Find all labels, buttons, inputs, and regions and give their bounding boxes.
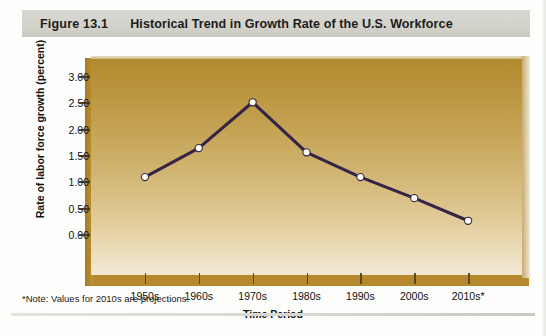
x-axis-tick-label: 2010s* <box>452 290 485 302</box>
figure-number-label: Figure 13.1 <box>40 17 108 31</box>
chart-plot-frame: Rate of labor force growth (percent) 0.0… <box>11 45 535 285</box>
footnote-text: *Note: Values for 2010s are projections. <box>22 293 189 304</box>
page-edge-shadow <box>541 0 546 336</box>
data-point-marker <box>411 195 418 202</box>
data-point-marker <box>249 99 256 106</box>
figure-header-band: Figure 13.1 Historical Trend in Growth R… <box>22 10 530 37</box>
x-axis-tick-label: 2000s <box>400 290 429 302</box>
data-point-marker <box>141 173 148 180</box>
series-polyline <box>145 102 468 221</box>
bottom-divider <box>11 313 535 316</box>
data-series-line <box>11 45 535 285</box>
data-point-marker <box>303 149 310 156</box>
x-axis-tick-label: 1990s <box>346 290 375 302</box>
x-axis-tick-label: 1980s <box>292 290 321 302</box>
figure-title-label: Historical Trend in Growth Rate of the U… <box>130 17 452 31</box>
x-axis-tick-label: 1970s <box>238 290 267 302</box>
data-point-marker <box>465 217 472 224</box>
data-point-marker <box>195 145 202 152</box>
figure-card: Figure 13.1 Historical Trend in Growth R… <box>0 0 546 336</box>
data-point-marker <box>357 173 364 180</box>
